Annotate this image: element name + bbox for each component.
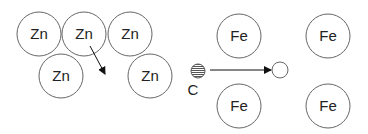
carbon-atom	[191, 64, 205, 78]
zn-atom-label: Zn	[30, 25, 48, 42]
fe-atom-label: Fe	[230, 27, 248, 44]
fe-atom: Fe	[306, 14, 350, 58]
diffusion-diagram: Zn Zn Zn Zn Zn Fe Fe Fe	[0, 0, 368, 134]
fe-atom: Fe	[217, 14, 261, 58]
fe-atom: Fe	[306, 84, 350, 128]
fe-atom-label: Fe	[319, 97, 337, 114]
zn-atom: Zn	[62, 12, 106, 56]
zn-atom-label: Zn	[75, 25, 93, 42]
zn-atom: Zn	[108, 12, 152, 56]
zn-atom: Zn	[17, 12, 61, 56]
fe-atom-label: Fe	[319, 27, 337, 44]
zinc-lattice: Zn Zn Zn Zn Zn	[17, 12, 172, 98]
carbon-label: C	[188, 81, 199, 98]
zn-atom: Zn	[39, 54, 83, 98]
interstitial-site	[272, 62, 288, 78]
fe-atom-label: Fe	[230, 97, 248, 114]
iron-lattice: Fe Fe Fe Fe C	[188, 14, 350, 128]
zn-atom-label: Zn	[121, 25, 139, 42]
zn-atom: Zn	[128, 54, 172, 98]
zn-atom-label: Zn	[141, 67, 159, 84]
zn-atom-label: Zn	[52, 67, 70, 84]
fe-atom: Fe	[217, 84, 261, 128]
